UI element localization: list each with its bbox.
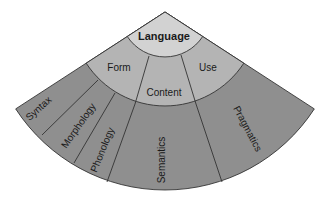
label-language: Language (138, 30, 190, 42)
label-use: Use (199, 62, 217, 73)
label-form: Form (107, 62, 130, 73)
language-fan-diagram: Language Form Content Use Syntax Morphol… (0, 0, 327, 207)
label-semantics: Semantics (156, 137, 167, 184)
label-content: Content (146, 87, 181, 98)
